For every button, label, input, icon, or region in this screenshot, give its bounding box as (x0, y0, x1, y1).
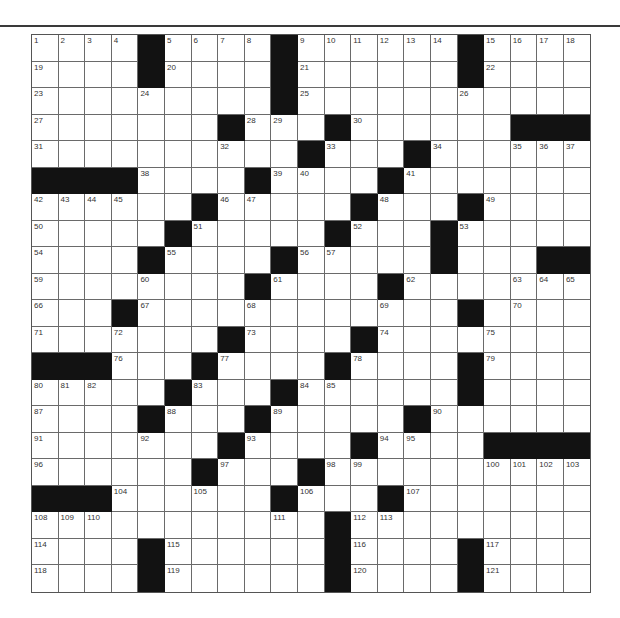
grid-cell[interactable] (511, 168, 538, 195)
grid-cell[interactable] (85, 115, 112, 142)
grid-cell[interactable] (404, 565, 431, 592)
grid-cell[interactable] (112, 274, 139, 301)
grid-cell[interactable] (165, 486, 192, 513)
grid-cell[interactable] (138, 194, 165, 221)
grid-cell[interactable] (325, 168, 352, 195)
grid-cell[interactable] (112, 459, 139, 486)
grid-cell[interactable] (138, 380, 165, 407)
grid-cell[interactable]: 83 (192, 380, 219, 407)
grid-cell[interactable]: 105 (192, 486, 219, 513)
grid-cell[interactable]: 90 (431, 406, 458, 433)
grid-cell[interactable]: 103 (564, 459, 591, 486)
grid-cell[interactable] (511, 406, 538, 433)
grid-cell[interactable] (404, 327, 431, 354)
grid-cell[interactable]: 109 (59, 512, 86, 539)
grid-cell[interactable] (245, 88, 272, 115)
grid-cell[interactable] (271, 565, 298, 592)
grid-cell[interactable] (484, 380, 511, 407)
grid-cell[interactable]: 116 (351, 539, 378, 566)
grid-cell[interactable]: 22 (484, 62, 511, 89)
grid-cell[interactable] (165, 353, 192, 380)
grid-cell[interactable] (564, 512, 591, 539)
grid-cell[interactable]: 73 (245, 327, 272, 354)
grid-cell[interactable]: 10 (325, 35, 352, 62)
grid-cell[interactable]: 36 (537, 141, 564, 168)
grid-cell[interactable] (165, 88, 192, 115)
grid-cell[interactable]: 69 (378, 300, 405, 327)
grid-cell[interactable]: 37 (564, 141, 591, 168)
grid-cell[interactable] (511, 486, 538, 513)
grid-cell[interactable] (378, 62, 405, 89)
grid-cell[interactable]: 33 (325, 141, 352, 168)
grid-cell[interactable]: 65 (564, 274, 591, 301)
grid-cell[interactable] (484, 115, 511, 142)
grid-cell[interactable]: 111 (271, 512, 298, 539)
grid-cell[interactable] (218, 406, 245, 433)
grid-cell[interactable] (484, 512, 511, 539)
grid-cell[interactable] (192, 565, 219, 592)
grid-cell[interactable] (85, 406, 112, 433)
grid-cell[interactable]: 66 (32, 300, 59, 327)
grid-cell[interactable] (59, 88, 86, 115)
grid-cell[interactable] (138, 327, 165, 354)
grid-cell[interactable]: 45 (112, 194, 139, 221)
grid-cell[interactable] (431, 539, 458, 566)
grid-cell[interactable]: 121 (484, 565, 511, 592)
grid-cell[interactable]: 19 (32, 62, 59, 89)
grid-cell[interactable] (484, 486, 511, 513)
grid-cell[interactable]: 56 (298, 247, 325, 274)
grid-cell[interactable]: 6 (192, 35, 219, 62)
grid-cell[interactable] (564, 353, 591, 380)
grid-cell[interactable] (298, 194, 325, 221)
grid-cell[interactable] (218, 62, 245, 89)
grid-cell[interactable]: 106 (298, 486, 325, 513)
grid-cell[interactable] (484, 141, 511, 168)
grid-cell[interactable] (458, 486, 485, 513)
grid-cell[interactable] (378, 459, 405, 486)
grid-cell[interactable] (218, 486, 245, 513)
grid-cell[interactable] (192, 168, 219, 195)
grid-cell[interactable]: 54 (32, 247, 59, 274)
grid-cell[interactable]: 1 (32, 35, 59, 62)
grid-cell[interactable]: 118 (32, 565, 59, 592)
grid-cell[interactable] (431, 274, 458, 301)
grid-cell[interactable] (564, 406, 591, 433)
grid-cell[interactable] (298, 565, 325, 592)
grid-cell[interactable]: 25 (298, 88, 325, 115)
grid-cell[interactable] (351, 274, 378, 301)
grid-cell[interactable] (484, 274, 511, 301)
grid-cell[interactable]: 112 (351, 512, 378, 539)
grid-cell[interactable] (85, 221, 112, 248)
grid-cell[interactable] (85, 327, 112, 354)
grid-cell[interactable] (564, 221, 591, 248)
grid-cell[interactable] (404, 459, 431, 486)
grid-cell[interactable] (458, 274, 485, 301)
grid-cell[interactable] (511, 194, 538, 221)
grid-cell[interactable]: 9 (298, 35, 325, 62)
grid-cell[interactable] (85, 539, 112, 566)
grid-cell[interactable]: 49 (484, 194, 511, 221)
grid-cell[interactable] (351, 300, 378, 327)
grid-cell[interactable] (218, 300, 245, 327)
grid-cell[interactable] (511, 512, 538, 539)
grid-cell[interactable]: 84 (298, 380, 325, 407)
grid-cell[interactable] (511, 327, 538, 354)
grid-cell[interactable]: 67 (138, 300, 165, 327)
grid-cell[interactable] (165, 194, 192, 221)
grid-cell[interactable] (325, 486, 352, 513)
grid-cell[interactable] (138, 141, 165, 168)
grid-cell[interactable]: 32 (218, 141, 245, 168)
grid-cell[interactable] (59, 327, 86, 354)
grid-cell[interactable] (325, 88, 352, 115)
grid-cell[interactable] (378, 565, 405, 592)
grid-cell[interactable] (564, 300, 591, 327)
grid-cell[interactable] (271, 539, 298, 566)
grid-cell[interactable] (85, 247, 112, 274)
grid-cell[interactable] (245, 62, 272, 89)
grid-cell[interactable] (192, 327, 219, 354)
grid-cell[interactable] (245, 459, 272, 486)
grid-cell[interactable]: 92 (138, 433, 165, 460)
grid-cell[interactable]: 53 (458, 221, 485, 248)
grid-cell[interactable]: 110 (85, 512, 112, 539)
grid-cell[interactable] (218, 168, 245, 195)
